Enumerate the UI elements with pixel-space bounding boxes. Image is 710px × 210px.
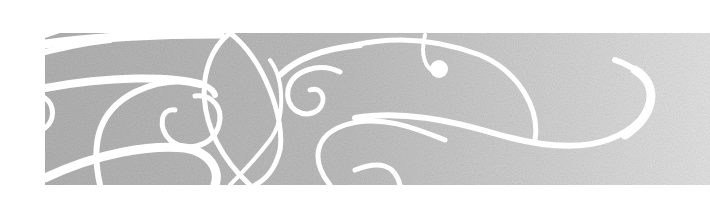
decorative-banner: [0, 0, 710, 210]
swirl-ornament-graphic: [0, 0, 710, 210]
textured-band: [45, 33, 710, 185]
swirl-dot: [430, 60, 448, 78]
